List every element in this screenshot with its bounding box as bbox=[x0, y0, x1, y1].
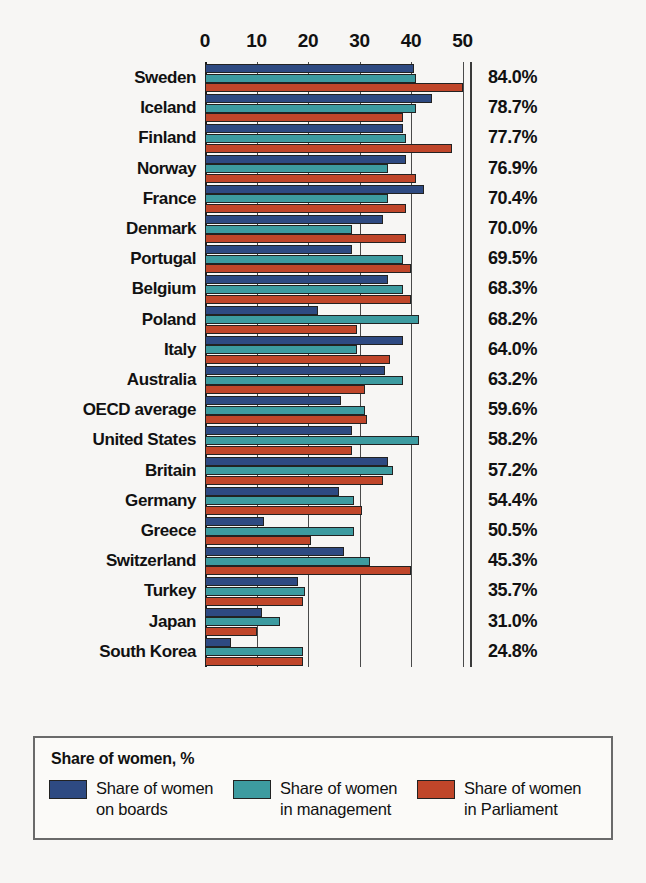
row-total: 50.5% bbox=[488, 520, 537, 541]
category-label: Turkey bbox=[144, 581, 196, 601]
bar bbox=[205, 164, 388, 173]
category-label: Switzerland bbox=[106, 551, 196, 571]
bar bbox=[205, 264, 411, 273]
bar bbox=[205, 295, 411, 304]
bar bbox=[205, 83, 463, 92]
bar bbox=[205, 527, 354, 536]
category-label: Sweden bbox=[134, 68, 196, 88]
x-tick-0: 0 bbox=[200, 30, 210, 52]
bar bbox=[205, 134, 406, 143]
bar bbox=[205, 245, 352, 254]
bar bbox=[205, 376, 403, 385]
row-total: 76.9% bbox=[488, 158, 537, 179]
category-label: Australia bbox=[127, 370, 196, 390]
bar-group bbox=[205, 547, 472, 577]
row-total: 69.5% bbox=[488, 248, 537, 269]
bar-group bbox=[205, 396, 472, 426]
category-label: United States bbox=[93, 430, 196, 450]
bar bbox=[205, 64, 414, 73]
bar bbox=[205, 255, 403, 264]
bar bbox=[205, 577, 298, 586]
bar bbox=[205, 325, 357, 334]
category-label: Belgium bbox=[132, 279, 196, 299]
bar bbox=[205, 306, 318, 315]
row-total: 84.0% bbox=[488, 67, 537, 88]
row-total: 59.6% bbox=[488, 399, 537, 420]
bar-group bbox=[205, 155, 472, 185]
bar bbox=[205, 215, 383, 224]
bar bbox=[205, 275, 388, 284]
x-tick-30: 30 bbox=[349, 30, 370, 52]
bar bbox=[205, 315, 419, 324]
bar bbox=[205, 204, 406, 213]
bar-group bbox=[205, 426, 472, 456]
bar bbox=[205, 406, 365, 415]
plot-area bbox=[205, 62, 472, 667]
bar-group bbox=[205, 94, 472, 124]
legend-label: Share of women on boards bbox=[96, 778, 213, 820]
bar bbox=[205, 517, 264, 526]
row-total: 70.4% bbox=[488, 188, 537, 209]
legend-item[interactable]: Share of women on boards bbox=[49, 778, 233, 820]
row-total: 31.0% bbox=[488, 611, 537, 632]
bar bbox=[205, 436, 419, 445]
bar-group bbox=[205, 366, 472, 396]
bar-group bbox=[205, 577, 472, 607]
bar-group bbox=[205, 487, 472, 517]
bar bbox=[205, 496, 354, 505]
row-total: 35.7% bbox=[488, 580, 537, 601]
chart-legend: Share of women, % Share of women on boar… bbox=[33, 736, 613, 840]
bar bbox=[205, 415, 367, 424]
bar bbox=[205, 466, 393, 475]
row-total: 77.7% bbox=[488, 127, 537, 148]
category-label-column: SwedenIcelandFinlandNorwayFranceDenmarkP… bbox=[0, 62, 196, 667]
bar bbox=[205, 608, 262, 617]
bar bbox=[205, 446, 352, 455]
bar-group bbox=[205, 306, 472, 336]
bar bbox=[205, 487, 339, 496]
row-total: 45.3% bbox=[488, 550, 537, 571]
row-total: 24.8% bbox=[488, 641, 537, 662]
bar-group bbox=[205, 185, 472, 215]
legend-swatch-icon bbox=[417, 780, 455, 799]
bar bbox=[205, 647, 303, 656]
legend-item[interactable]: Share of women in management bbox=[233, 778, 417, 820]
category-label: Poland bbox=[142, 310, 196, 330]
bar bbox=[205, 506, 362, 515]
x-tick-10: 10 bbox=[246, 30, 267, 52]
bar bbox=[205, 185, 424, 194]
legend-title: Share of women, % bbox=[51, 750, 194, 768]
bar bbox=[205, 285, 403, 294]
bar-group bbox=[205, 608, 472, 638]
bar-rows bbox=[205, 62, 472, 667]
row-total: 68.2% bbox=[488, 309, 537, 330]
row-total: 54.4% bbox=[488, 490, 537, 511]
bar bbox=[205, 225, 352, 234]
legend-item[interactable]: Share of women in Parliament bbox=[417, 778, 601, 820]
x-tick-20: 20 bbox=[298, 30, 319, 52]
legend-label: Share of women in management bbox=[280, 778, 397, 820]
bar-chart: 01020304050 SwedenIcelandFinlandNorwayFr… bbox=[0, 0, 646, 700]
bar bbox=[205, 547, 344, 556]
bar bbox=[205, 94, 432, 103]
row-total: 57.2% bbox=[488, 460, 537, 481]
row-total: 70.0% bbox=[488, 218, 537, 239]
legend-item-list: Share of women on boardsShare of women i… bbox=[49, 778, 601, 820]
x-axis-tick-labels: 01020304050 bbox=[0, 30, 646, 56]
bar bbox=[205, 627, 257, 636]
bar bbox=[205, 345, 357, 354]
row-total-column: 84.0%78.7%77.7%76.9%70.4%70.0%69.5%68.3%… bbox=[488, 62, 628, 667]
bar-group bbox=[205, 638, 472, 668]
bar bbox=[205, 587, 305, 596]
bar-group bbox=[205, 336, 472, 366]
bar bbox=[205, 336, 403, 345]
row-total: 63.2% bbox=[488, 369, 537, 390]
category-label: OECD average bbox=[83, 400, 196, 420]
bar bbox=[205, 234, 406, 243]
bar bbox=[205, 457, 388, 466]
category-label: Italy bbox=[164, 340, 196, 360]
bar bbox=[205, 536, 311, 545]
bar-group bbox=[205, 275, 472, 305]
category-label: South Korea bbox=[99, 642, 196, 662]
x-tick-40: 40 bbox=[401, 30, 422, 52]
